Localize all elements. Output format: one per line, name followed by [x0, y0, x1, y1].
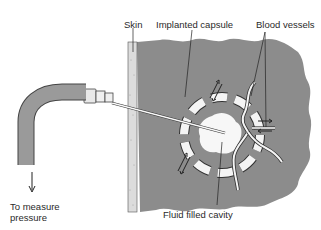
connector	[84, 89, 113, 103]
skin-label: Skin	[124, 19, 142, 30]
to-measure-pressure-label-line2: pressure	[10, 212, 47, 223]
to-measure-pressure-label-line1: To measure	[10, 201, 60, 212]
capsule-implant-diagram	[0, 0, 321, 230]
blood-vessels-label: Blood vessels	[256, 19, 315, 30]
implanted-capsule-label: Implanted capsule	[156, 19, 233, 30]
skin-layer	[128, 42, 137, 212]
fluid-filled-cavity-label: Fluid filled cavity	[163, 209, 233, 220]
